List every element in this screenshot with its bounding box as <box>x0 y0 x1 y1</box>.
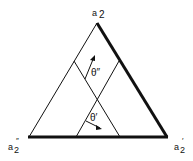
svg-text:″: ″ <box>16 136 19 145</box>
svg-text:a: a <box>8 142 13 152</box>
svg-text:a: a <box>92 8 97 18</box>
svg-text:2: 2 <box>14 145 19 155</box>
svg-text:2: 2 <box>99 9 105 20</box>
svg-text:a: a <box>174 142 179 152</box>
theta-prime-label: θ′ <box>90 112 98 123</box>
svg-text:′: ′ <box>182 136 184 145</box>
left-edge <box>29 23 97 137</box>
ternary-diagram: θ″ θ′ a 2 a 2 ″ a 2 ′ <box>0 0 193 161</box>
svg-text:2: 2 <box>180 145 185 155</box>
vertex-label-bottom-right: a 2 ′ <box>174 136 185 155</box>
theta-double-prime-label: θ″ <box>91 67 101 78</box>
vertex-label-bottom-left: a 2 ″ <box>8 136 19 155</box>
vertex-label-top: a 2 <box>92 8 105 20</box>
right-edge-bold <box>97 23 167 137</box>
